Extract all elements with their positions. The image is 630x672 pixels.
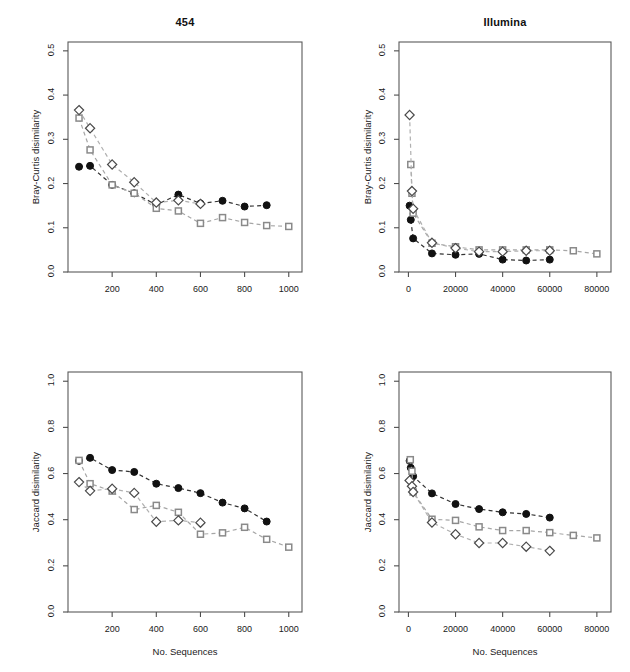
- data-point-open-diamond: [522, 542, 531, 551]
- data-point-filled-circle: [546, 514, 553, 521]
- series-filled-circle: [406, 457, 553, 521]
- data-point-open-diamond: [474, 538, 483, 547]
- figure-canvas: 454Bray-Curtis disimilarity0.00.10.20.30…: [0, 0, 630, 672]
- data-point-open-square: [547, 530, 553, 536]
- data-point-open-diamond: [451, 530, 460, 539]
- series-line: [410, 460, 597, 538]
- data-point-open-square: [453, 517, 459, 523]
- data-point-filled-circle: [452, 501, 459, 508]
- data-point-filled-circle: [523, 510, 530, 517]
- data-point-open-square: [407, 457, 413, 463]
- series-open-diamond: [405, 476, 554, 556]
- plot-area: [0, 0, 630, 672]
- data-point-open-square: [500, 528, 506, 534]
- data-point-open-square: [523, 528, 529, 534]
- data-point-open-square: [409, 468, 415, 474]
- panel-illumina-jaccard: Jaccard disimilarityNo. Sequences0.00.20…: [0, 0, 630, 672]
- series-open-square: [407, 457, 600, 541]
- data-point-open-square: [570, 532, 576, 538]
- data-point-open-diamond: [498, 538, 507, 547]
- data-point-open-square: [594, 535, 600, 541]
- data-point-open-square: [476, 524, 482, 530]
- data-point-filled-circle: [499, 509, 506, 516]
- data-point-open-diamond: [545, 546, 554, 555]
- data-point-filled-circle: [476, 506, 483, 513]
- data-point-filled-circle: [428, 490, 435, 497]
